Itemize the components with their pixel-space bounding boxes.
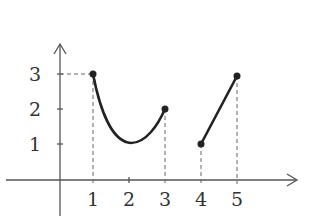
x-label-2: 2 xyxy=(123,188,135,210)
x-label-3: 3 xyxy=(159,188,171,210)
x-label-4: 4 xyxy=(195,188,207,210)
endpoints xyxy=(90,71,241,148)
point-3-2 xyxy=(162,106,169,113)
tick-labels: 3 2 1 1 2 3 4 5 xyxy=(29,63,243,210)
segment-2-line xyxy=(201,76,237,144)
point-5-3 xyxy=(234,73,241,80)
function-graph: 3 2 1 1 2 3 4 5 xyxy=(0,0,312,222)
segment-1-curve xyxy=(93,74,165,143)
point-1-3 xyxy=(90,71,97,78)
point-4-1 xyxy=(198,141,205,148)
x-label-5: 5 xyxy=(231,188,243,210)
guide-lines xyxy=(60,74,237,184)
x-label-1: 1 xyxy=(87,188,99,210)
y-label-3: 3 xyxy=(29,63,41,85)
y-label-1: 1 xyxy=(29,133,41,155)
y-label-2: 2 xyxy=(29,98,41,120)
